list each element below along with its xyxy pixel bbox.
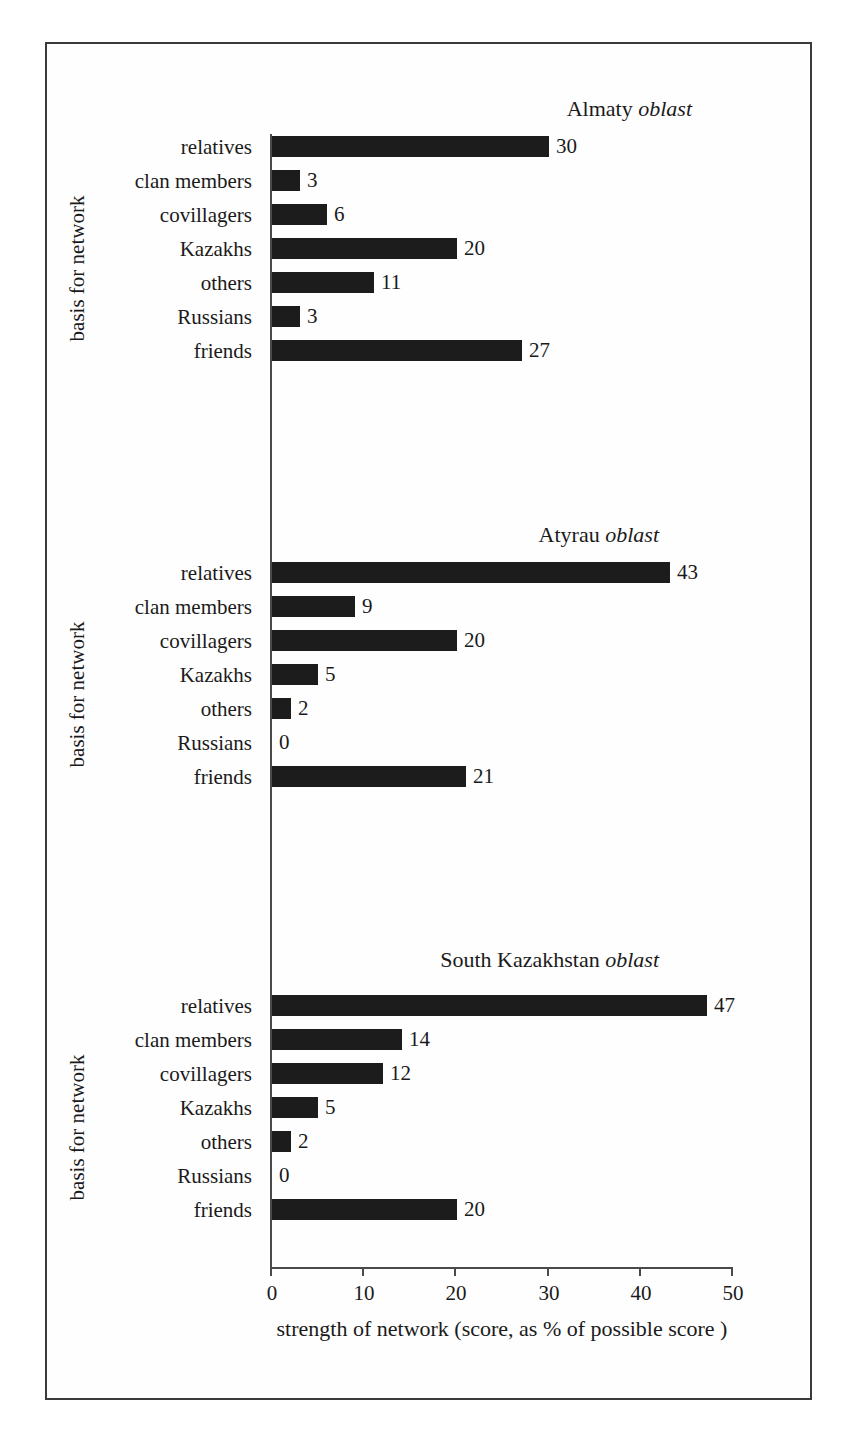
category-label: relatives (47, 136, 252, 158)
category-label: Russians (47, 732, 252, 754)
x-tick-10 (362, 1267, 364, 1276)
panel-atyrau: Atyrau oblast basis for network relative… (47, 522, 814, 802)
table-row: clan members 9 (47, 596, 814, 630)
bar-value-label: 20 (457, 1198, 485, 1220)
table-row: clan members 14 (47, 1029, 814, 1063)
table-row: Russians 3 (47, 306, 814, 340)
bar-rows-atyrau: relatives 43 clan members 9 covillagers (47, 562, 814, 800)
x-tick-label-0: 0 (242, 1280, 302, 1306)
bar-value-label: 9 (355, 595, 373, 617)
bar (272, 340, 522, 361)
bar (272, 272, 374, 293)
category-label: clan members (47, 1029, 252, 1051)
category-label: friends (47, 1199, 252, 1221)
bar (272, 1199, 457, 1220)
panel-title-south-kazakhstan: South Kazakhstan oblast (440, 947, 659, 973)
table-row: covillagers 20 (47, 630, 814, 664)
category-label: Kazakhs (47, 238, 252, 260)
bar-value-label: 12 (383, 1062, 411, 1084)
bar-value-label: 20 (457, 237, 485, 259)
x-axis-title: strength of network (score, as % of poss… (187, 1316, 817, 1342)
table-row: friends 21 (47, 766, 814, 800)
table-row: clan members 3 (47, 170, 814, 204)
bar-value-label: 5 (318, 663, 336, 685)
category-label: others (47, 272, 252, 294)
bar (272, 170, 300, 191)
table-row: relatives 30 (47, 136, 814, 170)
category-label: Kazakhs (47, 664, 252, 686)
panel-title-region: South Kazakhstan (440, 947, 599, 972)
bar (272, 596, 355, 617)
panel-title-region: Almaty (567, 96, 633, 121)
figure-frame: Almaty oblast basis for network relative… (45, 42, 812, 1400)
bar (272, 630, 457, 651)
bar-value-label: 47 (707, 994, 735, 1016)
panel-title-region: Atyrau (539, 522, 600, 547)
bar-value-label: 0 (272, 731, 290, 753)
category-label: covillagers (47, 630, 252, 652)
panel-title-oblast: oblast (605, 947, 659, 972)
category-label: Kazakhs (47, 1097, 252, 1119)
bar-value-label: 30 (549, 135, 577, 157)
category-label: friends (47, 766, 252, 788)
x-tick-label-50: 50 (703, 1280, 763, 1306)
bar (272, 1029, 402, 1050)
x-tick-label-10: 10 (334, 1280, 394, 1306)
panel-title-almaty: Almaty oblast (567, 96, 692, 122)
bar-value-label: 3 (300, 169, 318, 191)
bar (272, 1063, 383, 1084)
bar-value-label: 5 (318, 1096, 336, 1118)
category-label: others (47, 1131, 252, 1153)
bar (272, 664, 318, 685)
bar-value-label: 43 (670, 561, 698, 583)
x-tick-40 (639, 1267, 641, 1276)
x-tick-0 (270, 1267, 272, 1276)
x-tick-50 (731, 1267, 733, 1276)
panel-almaty: Almaty oblast basis for network relative… (47, 96, 814, 376)
bar (272, 698, 291, 719)
bar (272, 306, 300, 327)
x-tick-label-40: 40 (611, 1280, 671, 1306)
bar-value-label: 11 (374, 271, 401, 293)
category-label: friends (47, 340, 252, 362)
bar-rows-almaty: relatives 30 clan members 3 covillagers (47, 136, 814, 374)
x-tick-label-20: 20 (426, 1280, 486, 1306)
plot-area: Almaty oblast basis for network relative… (47, 44, 814, 1402)
bar (272, 204, 327, 225)
table-row: relatives 43 (47, 562, 814, 596)
x-tick-30 (547, 1267, 549, 1276)
panel-title-oblast: oblast (605, 522, 659, 547)
category-label: Russians (47, 1165, 252, 1187)
category-label: Russians (47, 306, 252, 328)
table-row: others 11 (47, 272, 814, 306)
table-row: relatives 47 (47, 995, 814, 1029)
x-axis-line (270, 1267, 732, 1269)
bar (272, 995, 707, 1016)
bar-rows-south-kazakhstan: relatives 47 clan members 14 covillagers (47, 995, 814, 1233)
table-row: Russians 0 (47, 1165, 814, 1199)
table-row: others 2 (47, 698, 814, 732)
panel-title-oblast: oblast (638, 96, 692, 121)
bar-value-label: 2 (291, 697, 309, 719)
table-row: others 2 (47, 1131, 814, 1165)
panel-south-kazakhstan: South Kazakhstan oblast basis for networ… (47, 947, 814, 1237)
bar (272, 238, 457, 259)
category-label: others (47, 698, 252, 720)
bar (272, 766, 466, 787)
table-row: covillagers 12 (47, 1063, 814, 1097)
x-tick-20 (454, 1267, 456, 1276)
bar-value-label: 2 (291, 1130, 309, 1152)
category-label: covillagers (47, 1063, 252, 1085)
table-row: friends 20 (47, 1199, 814, 1233)
bar (272, 562, 670, 583)
category-label: covillagers (47, 204, 252, 226)
table-row: Kazakhs 5 (47, 664, 814, 698)
category-label: clan members (47, 596, 252, 618)
category-label: relatives (47, 562, 252, 584)
table-row: Kazakhs 20 (47, 238, 814, 272)
table-row: Russians 0 (47, 732, 814, 766)
category-label: relatives (47, 995, 252, 1017)
panel-title-atyrau: Atyrau oblast (539, 522, 659, 548)
table-row: friends 27 (47, 340, 814, 374)
bar-value-label: 3 (300, 305, 318, 327)
